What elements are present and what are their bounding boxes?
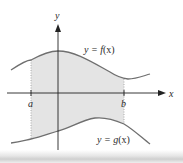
curve-label-g-arg: (x): [118, 134, 130, 146]
bound-label-a: a: [28, 98, 33, 109]
bottom-shadow-band: [0, 150, 183, 163]
bound-label-b: b: [121, 98, 126, 109]
y-axis-arrow-icon: [55, 24, 61, 32]
y-axis-label: y: [54, 10, 60, 21]
curve-label-g: y = g(x): [96, 134, 130, 146]
curve-label-g-prefix: y =: [96, 134, 113, 145]
curve-label-f-prefix: y =: [83, 44, 100, 55]
x-axis-label: x: [168, 88, 174, 99]
area-between-curves-diagram: y x a b y = f(x) y = g(x): [0, 0, 183, 163]
curve-label-f: y = f(x): [83, 44, 115, 56]
curve-label-f-arg: (x): [103, 44, 115, 56]
x-axis-arrow-icon: [158, 90, 166, 96]
shaded-region: [31, 51, 124, 139]
